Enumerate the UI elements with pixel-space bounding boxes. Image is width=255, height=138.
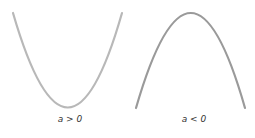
- parabola-diagram: [0, 0, 255, 138]
- downward-parabola-curve: [136, 13, 245, 108]
- label-a-positive: a > 0: [58, 114, 83, 124]
- label-a-negative: a < 0: [182, 114, 207, 124]
- upward-parabola-curve: [13, 13, 122, 108]
